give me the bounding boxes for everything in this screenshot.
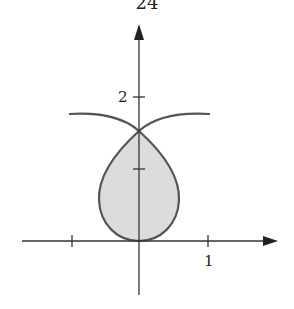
y-axis-arrow xyxy=(134,24,144,40)
x-tick-label-1: 1 xyxy=(204,252,214,270)
diagram xyxy=(0,0,294,309)
y-tick-label-2: 2 xyxy=(118,88,128,106)
x-axis-arrow xyxy=(263,236,278,246)
upper-curve-left xyxy=(69,114,139,131)
upper-curve-right xyxy=(139,114,210,131)
